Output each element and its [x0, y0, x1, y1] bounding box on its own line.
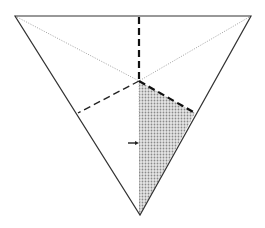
dotted-line-right — [139, 16, 251, 81]
shaded-face — [139, 81, 195, 215]
dotted-line-left — [15, 16, 139, 81]
dashed-line-left — [78, 81, 139, 113]
arrow-head-icon — [135, 141, 139, 145]
tetrahedron-diagram — [0, 0, 265, 228]
outer-triangle — [15, 16, 251, 215]
